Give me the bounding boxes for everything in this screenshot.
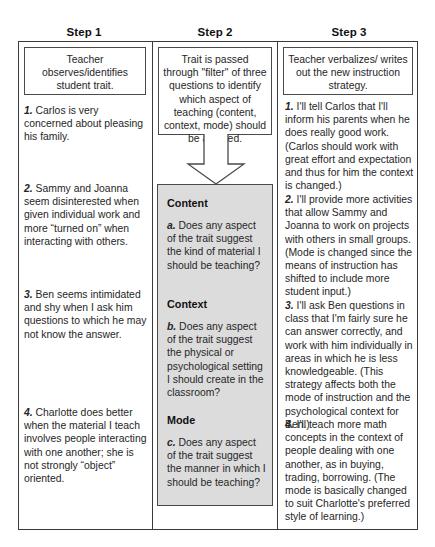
filter-question-b: b. Does any aspect of the trait suggest … bbox=[167, 320, 267, 399]
step-1-item-1-text: Carlos is very concerned about pleasing … bbox=[24, 105, 143, 142]
step-3-item-4-number: 4. bbox=[285, 419, 294, 430]
step-3-item-2-text: I'll provide more activities that allow … bbox=[285, 194, 412, 297]
filter-question-a-text: Does any aspect of the trait suggest the… bbox=[167, 220, 261, 271]
step-1-item-4-number: 4. bbox=[24, 407, 33, 418]
step-3-item-1-number: 1. bbox=[285, 101, 294, 112]
filter-question-a: a. Does any aspect of the trait suggest … bbox=[167, 219, 267, 272]
step-1-item-3: 3. Ben seems intimidated and shy when I … bbox=[24, 288, 150, 341]
step-3-item-4-text: I'll teach more math concepts in the con… bbox=[285, 419, 410, 522]
step-3-item-4: 4. I'll teach more math concepts in the … bbox=[285, 418, 417, 524]
step-3-item-3-text: I'll ask Ben questions in class that I'm… bbox=[285, 300, 413, 430]
step-1-item-1: 1. Carlos is very concerned about pleasi… bbox=[24, 104, 148, 144]
filter-question-a-number: a. bbox=[167, 220, 176, 231]
step-3-item-2-number: 2. bbox=[285, 194, 294, 205]
filter-questions-box: Content a. Does any aspect of the trait … bbox=[157, 184, 273, 506]
step-1-item-4: 4. Charlotte does better when the materi… bbox=[24, 406, 150, 485]
filter-section-mode: Mode c. Does any aspect of the trait sug… bbox=[167, 414, 267, 489]
step-1-title: Step 1 bbox=[18, 24, 150, 40]
step-3-summary-box: Teacher verbalizes/ writes out the new i… bbox=[283, 47, 413, 95]
step-3-item-3: 3. I'll ask Ben questions in class that … bbox=[285, 299, 417, 431]
step-3-item-1: 1. I'll tell Carlos that I'll inform his… bbox=[285, 100, 417, 192]
filter-question-b-number: b. bbox=[167, 321, 176, 332]
filter-heading-content: Content bbox=[167, 197, 267, 210]
step-3-item-2: 2. I'll provide more activities that all… bbox=[285, 193, 417, 299]
filter-heading-mode: Mode bbox=[167, 414, 267, 427]
filter-section-content: Content a. Does any aspect of the trait … bbox=[167, 197, 267, 272]
step-2-title: Step 2 bbox=[155, 24, 275, 40]
step-1-summary-box: Teacher observes/identifies student trai… bbox=[24, 47, 146, 95]
step-3-item-1-text: I'll tell Carlos that I'll inform his pa… bbox=[285, 101, 413, 191]
down-arrow-icon bbox=[176, 134, 256, 186]
step-1-item-3-number: 3. bbox=[24, 289, 33, 300]
trait-filter-diagram: Step 1 Step 2 Step 3 Teacher observes/id… bbox=[0, 0, 435, 547]
step-3-title: Step 3 bbox=[280, 24, 418, 40]
column-divider-1 bbox=[152, 41, 153, 530]
filter-question-c-text: Does any aspect of the trait suggest the… bbox=[167, 437, 266, 488]
step-1-item-1-number: 1. bbox=[24, 105, 33, 116]
filter-heading-context: Context bbox=[167, 298, 267, 311]
step-1-item-2-number: 2. bbox=[24, 183, 33, 194]
step-2-summary-box: Trait is passed through "filter" of thre… bbox=[158, 47, 272, 135]
step-1-item-3-text: Ben seems intimidated and shy when I ask… bbox=[24, 289, 146, 340]
step-1-item-2-text: Sammy and Joanna seem disinterested when… bbox=[24, 183, 140, 247]
filter-question-b-text: Does any aspect of the trait suggest the… bbox=[167, 321, 263, 398]
filter-question-c: c. Does any aspect of the trait suggest … bbox=[167, 436, 267, 489]
column-divider-2 bbox=[277, 41, 278, 530]
filter-question-c-number: c. bbox=[167, 437, 176, 448]
filter-section-context: Context b. Does any aspect of the trait … bbox=[167, 298, 267, 399]
step-3-item-3-number: 3. bbox=[285, 300, 294, 311]
step-1-item-2: 2. Sammy and Joanna seem disinterested w… bbox=[24, 182, 148, 248]
step-1-item-4-text: Charlotte does better when the material … bbox=[24, 407, 146, 484]
